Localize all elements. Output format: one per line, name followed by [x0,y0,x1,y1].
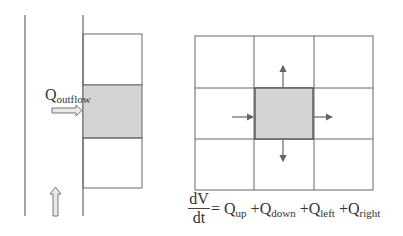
term-q-down: Qdown [260,200,296,217]
equation-denominator: dt [188,209,210,227]
equals-sign: = [211,200,220,217]
term-q-right: Qright [348,200,380,217]
cell-shaded [83,85,142,138]
term-q-up: Qup [224,200,247,217]
outflow-label-main: Q [45,86,57,103]
outflow-label: Qoutflow [45,86,91,105]
cell-top [83,34,142,85]
center-cell-shaded [255,88,313,139]
outflow-label-sub: outflow [57,93,91,105]
plus-sign: + [251,200,260,217]
equation-numerator: dV [188,190,210,209]
equation-rhs: = Qup +Qdown +Qleft +Qright [211,200,380,219]
plus-sign: + [300,200,309,217]
plus-sign: + [339,200,348,217]
equation-fraction: dV dt [188,190,210,227]
outflow-arrow-icon [52,105,82,116]
flow-up-arrow-icon [50,187,61,216]
cell-bottom [83,138,142,188]
term-q-left: Qleft [309,200,335,217]
